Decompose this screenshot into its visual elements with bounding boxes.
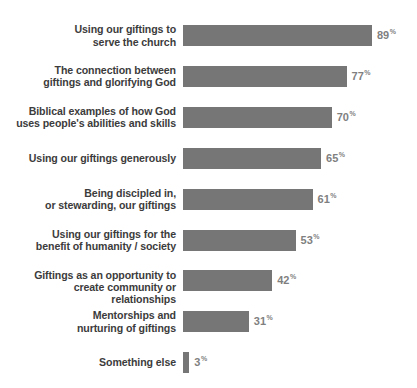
bar-track <box>183 25 372 46</box>
bar-fill <box>183 270 272 291</box>
bar-value-number: 53 <box>301 233 313 245</box>
bar-category-label: Mentorships and nurturing of giftings <box>16 309 176 334</box>
bar-track <box>183 230 296 251</box>
bar-row: The connection between giftings and glor… <box>0 66 417 100</box>
percent-sign: % <box>267 314 273 321</box>
bar-value-label: 31% <box>254 314 273 327</box>
bar-row: Mentorships and nurturing of giftings31% <box>0 311 417 345</box>
percent-sign: % <box>390 28 396 35</box>
percent-sign: % <box>349 110 355 117</box>
bar-value-label: 77% <box>352 69 371 82</box>
bar-track <box>183 270 272 291</box>
percent-sign: % <box>290 273 296 280</box>
bar-row: Giftings as an opportunity to create com… <box>0 270 417 304</box>
bar-value-number: 65 <box>326 151 338 163</box>
percent-sign: % <box>339 151 345 158</box>
bar-fill <box>183 107 332 128</box>
bar-value-label: 65% <box>326 151 345 164</box>
bar-row: Using our giftings generously65% <box>0 148 417 182</box>
bar-row: Biblical examples of how God uses people… <box>0 107 417 141</box>
bar-category-label: Giftings as an opportunity to create com… <box>16 269 176 306</box>
bar-chart: Using our giftings to serve the church89… <box>0 0 417 388</box>
bar-value-number: 3 <box>194 356 200 368</box>
bar-row: Being discipled in, or stewarding, our g… <box>0 189 417 223</box>
bar-track <box>183 311 249 332</box>
bar-value-number: 31 <box>254 315 266 327</box>
bar-category-label: Using our giftings generously <box>16 152 176 164</box>
bar-category-label: Something else <box>16 356 176 368</box>
bar-value-number: 89 <box>377 29 389 41</box>
bar-category-label: Using our giftings to serve the church <box>16 23 176 48</box>
bar-track <box>183 352 189 373</box>
bar-row: Something else3% <box>0 352 417 386</box>
bar-fill <box>183 66 347 87</box>
bar-value-number: 77 <box>352 70 364 82</box>
bar-rows-container: Using our giftings to serve the church89… <box>0 0 417 388</box>
bar-fill <box>183 25 372 46</box>
percent-sign: % <box>313 233 319 240</box>
bar-category-label: Biblical examples of how God uses people… <box>16 105 176 130</box>
bar-value-label: 89% <box>377 28 396 41</box>
bar-value-number: 70 <box>337 110 349 122</box>
percent-sign: % <box>201 355 207 362</box>
bar-value-label: 42% <box>277 273 296 286</box>
bar-track <box>183 107 332 128</box>
bar-value-label: 61% <box>318 192 337 205</box>
bar-fill <box>183 230 296 251</box>
bar-category-label: Being discipled in, or stewarding, our g… <box>16 187 176 212</box>
percent-sign: % <box>330 192 336 199</box>
percent-sign: % <box>364 69 370 76</box>
bar-row: Using our giftings for the benefit of hu… <box>0 230 417 264</box>
bar-row: Using our giftings to serve the church89… <box>0 25 417 59</box>
bar-value-label: 53% <box>301 233 320 246</box>
bar-fill <box>183 189 313 210</box>
bar-value-label: 70% <box>337 110 356 123</box>
bar-category-label: The connection between giftings and glor… <box>16 64 176 89</box>
bar-value-number: 61 <box>318 192 330 204</box>
bar-fill <box>183 311 249 332</box>
bar-value-number: 42 <box>277 274 289 286</box>
bar-track <box>183 66 347 87</box>
bar-category-label: Using our giftings for the benefit of hu… <box>16 228 176 253</box>
bar-fill <box>183 148 321 169</box>
bar-fill <box>183 352 189 373</box>
bar-track <box>183 148 321 169</box>
bar-value-label: 3% <box>194 355 207 368</box>
bar-track <box>183 189 313 210</box>
